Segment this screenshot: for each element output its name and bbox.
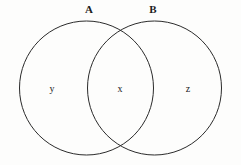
region-intersection-label: x (108, 84, 132, 94)
region-a-only-label: y (40, 84, 64, 94)
venn-diagram: A B y x z (0, 0, 241, 165)
set-b-label: B (141, 4, 165, 15)
region-b-only-label: z (176, 84, 200, 94)
set-a-label: A (77, 4, 101, 15)
